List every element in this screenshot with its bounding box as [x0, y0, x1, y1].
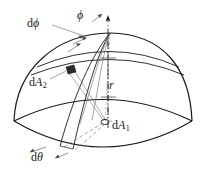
label-dA1-subscript: 1: [126, 124, 130, 133]
dphi-leader-line: [52, 25, 84, 36]
label-phi: ϕ: [77, 9, 83, 21]
label-d-theta-symbol: θ: [37, 150, 43, 164]
dA2-leader-line: [50, 71, 66, 79]
label-dA2-subscript: 2: [43, 81, 47, 90]
latitude-arc-lower: [31, 60, 184, 76]
label-phi-symbol: ϕ: [77, 8, 83, 22]
base-back-arc: [14, 100, 192, 122]
label-dA1: dA1: [112, 119, 130, 133]
ray-to-patch-right: [74, 70, 106, 121]
dome-right-silhouette: [110, 33, 192, 121]
meridian-line-aux-a: [80, 33, 110, 124]
label-d-phi: dϕ: [27, 17, 39, 29]
base-dashed-projection-left: [62, 123, 103, 148]
meridian-line-left: [60, 33, 110, 146]
label-d-theta: dθ: [31, 151, 43, 163]
patch-dA2-shape: [66, 65, 76, 74]
base-front-arc: [14, 121, 192, 147]
label-dA2: dA2: [29, 76, 47, 90]
wedge-foot-line: [60, 146, 73, 149]
label-r: r: [109, 79, 114, 91]
label-d-phi-symbol: ϕ: [33, 16, 39, 30]
dphi-angle-arrowhead-a: [82, 37, 87, 40]
label-dA2-symbol: A: [35, 75, 42, 89]
dtheta-arrowhead-right: [55, 155, 60, 159]
label-r-symbol: r: [109, 78, 114, 92]
hemisphere-solid-angle-figure: dϕ ϕ dA2 r dA1 dθ: [0, 0, 207, 177]
label-dA1-symbol: A: [118, 118, 125, 132]
ray-to-patch-left: [67, 70, 104, 121]
